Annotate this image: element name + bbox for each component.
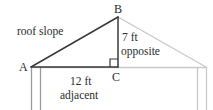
vertex-label-a: A xyxy=(19,61,28,73)
geometry-figure-canvas: roof slope A B C 7 ft opposite 12 ft adj… xyxy=(0,0,213,110)
opposite-side-label: opposite xyxy=(121,46,160,58)
opposite-length-label: 7 ft xyxy=(122,32,138,44)
adjacent-side-label: adjacent xyxy=(60,90,98,102)
vertex-label-b: B xyxy=(114,3,122,15)
vertex-label-c: C xyxy=(112,71,120,83)
adjacent-length-label: 12 ft xyxy=(70,76,91,88)
roof-slope-label: roof slope xyxy=(17,26,63,38)
right-angle-marker xyxy=(110,59,118,67)
roof-triangle-diagram xyxy=(0,0,213,110)
